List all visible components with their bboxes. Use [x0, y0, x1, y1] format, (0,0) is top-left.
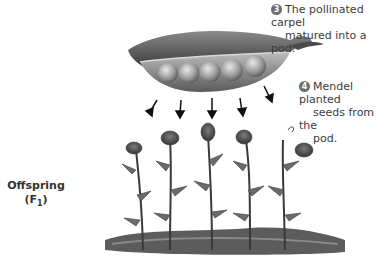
- offspring-label: Offspring (F1): [6, 179, 66, 211]
- step-3-caption: 3The pollinated carpel matured into a po…: [271, 3, 377, 55]
- step-number-badge: 4: [299, 81, 310, 92]
- step-number-badge: 3: [271, 4, 282, 15]
- step-4-caption: 4Mendel planted seeds from the pod.: [299, 80, 377, 145]
